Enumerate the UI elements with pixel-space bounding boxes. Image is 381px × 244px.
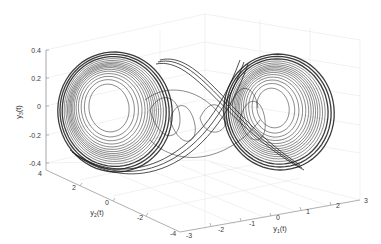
y-tick-neg4: -4: [170, 230, 176, 237]
x-tick-neg2: -2: [218, 226, 224, 233]
x-tick-2: 2: [336, 202, 340, 209]
x-tick-0: 0: [276, 214, 280, 221]
x-axis-line: [180, 200, 360, 232]
grid-lines: [46, 14, 360, 230]
y-tick-4: 4: [38, 170, 42, 177]
attractor-3d-plot: 0.4 0.2 0 -0.2 -0.4 4 2 0 -2 -4 -3 -2 -1…: [0, 0, 381, 244]
z-tick-neg0.4: -0.4: [29, 160, 41, 167]
y-tick-labels: 4 2 0 -2 -4: [38, 170, 176, 237]
y-tick-0: 0: [105, 199, 109, 206]
y-tick-2: 2: [72, 184, 76, 191]
attractor-trajectory: [58, 52, 334, 174]
x-tick-3: 3: [364, 197, 368, 204]
z-tick-0.2: 0.2: [31, 75, 41, 82]
z-tick-0.4: 0.4: [31, 47, 41, 54]
z-tick-neg0.2: -0.2: [29, 132, 41, 139]
y-tick-neg2: -2: [137, 214, 143, 221]
z-tick-labels: 0.4 0.2 0 -0.2 -0.4: [29, 47, 41, 167]
x-tick-neg3: -3: [186, 232, 192, 239]
x-tick-neg1: -1: [249, 220, 255, 227]
y-axis-label: y2(t): [90, 208, 104, 218]
z-axis-label: y3(t): [14, 105, 24, 119]
x-axis-label: y1(t): [273, 224, 287, 234]
x-tick-1: 1: [306, 208, 310, 215]
z-tick-0: 0: [37, 103, 41, 110]
